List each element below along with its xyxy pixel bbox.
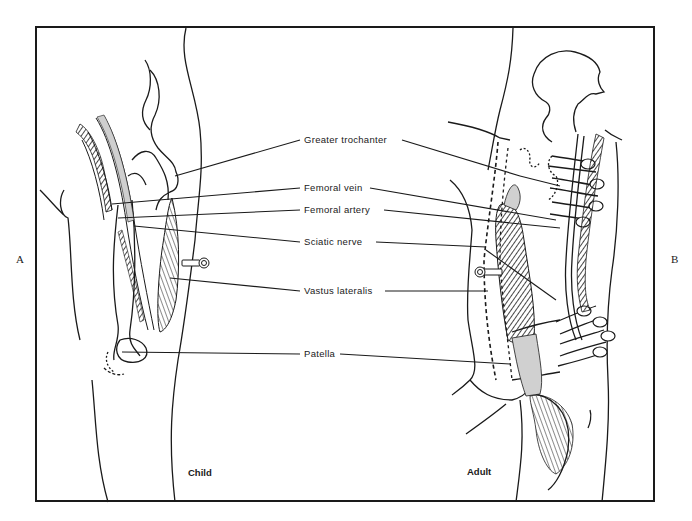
adult-injection-zone-upper <box>504 185 520 210</box>
caption-adult: Adult <box>467 466 491 477</box>
adult-leg-illustration <box>448 28 622 502</box>
caption-child: Child <box>188 467 212 478</box>
label-vastus-lateralis: Vastus lateralis <box>303 285 374 296</box>
adult-injection-zone-lower <box>512 334 542 396</box>
leader-lines <box>112 140 560 364</box>
anatomy-illustration <box>0 0 692 521</box>
child-syringe-icon <box>182 258 209 268</box>
label-sciatic-nerve: Sciatic nerve <box>303 236 363 247</box>
adult-syringe-icon <box>475 267 502 277</box>
label-femoral-artery: Femoral artery <box>303 204 371 215</box>
label-femoral-vein: Femoral vein <box>303 182 364 193</box>
adult-knee-muscle <box>530 395 573 474</box>
child-sciatic-nerve-shape <box>76 124 112 212</box>
child-vastus-lateralis-muscle <box>158 198 179 332</box>
label-greater-trochanter: Greater trochanter <box>303 134 388 145</box>
child-deep-vessel <box>118 230 144 322</box>
label-patella: Patella <box>303 348 336 359</box>
